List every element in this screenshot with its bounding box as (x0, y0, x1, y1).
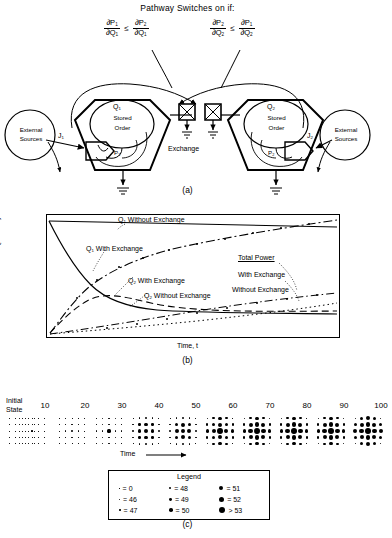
matrix-dot (59, 437, 60, 438)
matrix-dot (206, 429, 209, 432)
matrix-dot (188, 423, 191, 426)
matrix-dot (249, 443, 252, 446)
annotation-q1-with-exchange: Q1 With Exchange (86, 245, 143, 254)
matrix-dot (292, 442, 295, 445)
matrix-dot (299, 443, 302, 446)
legend-item: = 50 (169, 506, 189, 514)
matrix-dot (59, 443, 60, 444)
matrix-dot (181, 429, 186, 434)
matrix-dot (280, 423, 283, 426)
matrix-dot (152, 417, 154, 419)
matrix-dot (181, 435, 185, 439)
caption-a: (a) (0, 186, 375, 195)
legend-dot (169, 487, 171, 489)
matrix-dot (372, 429, 377, 434)
matrix-dot (269, 443, 270, 444)
matrix-dot (102, 424, 103, 425)
legend-title: Legend (109, 472, 269, 481)
tank-right-line1: Stored (254, 115, 299, 122)
annotation-total-power-title: Total Power (238, 254, 275, 261)
matrix-dot (317, 429, 320, 432)
matrix-dot (323, 423, 327, 427)
column-header-30: 30 (107, 401, 137, 410)
matrix-dot (151, 429, 154, 432)
matrix-dot (249, 417, 252, 420)
matrix-dot (189, 443, 191, 445)
matrix-dot (336, 417, 339, 420)
legend-item: = 51 (219, 484, 240, 492)
matrix-dot (292, 417, 295, 420)
matrix-10 (16, 415, 48, 447)
matrix-dot (145, 417, 148, 420)
matrix-dot (169, 430, 172, 433)
matrix-dot (59, 424, 60, 425)
matrix-dot (84, 418, 85, 419)
matrix-dot (248, 429, 253, 434)
matrix-dot (158, 430, 161, 433)
matrix-dot (329, 422, 334, 427)
matrix-dot (195, 418, 196, 419)
matrix-dot (335, 423, 339, 427)
matrix-dot (343, 436, 346, 439)
matrix-dot (187, 429, 191, 433)
matrix-dot (133, 418, 134, 419)
matrix-dot (323, 417, 326, 420)
matrix-dot (115, 443, 116, 444)
matrix-dot (38, 431, 39, 432)
matrix-dot (195, 430, 198, 433)
matrix-dot (38, 443, 39, 444)
flow-label-j1: J1 (58, 132, 64, 141)
matrix-dot (218, 417, 221, 420)
matrix-dot (176, 443, 178, 445)
legend-label: = 49 (175, 496, 189, 503)
matrix-dot (372, 423, 376, 427)
matrix-dot (212, 417, 215, 420)
matrix-dot (366, 416, 370, 420)
matrix-dot (132, 424, 134, 426)
column-header-50: 50 (181, 401, 211, 410)
matrix-dot (298, 423, 302, 427)
matrix-dot (380, 418, 381, 419)
tank-right-line2: Order (254, 125, 299, 132)
matrix-dot (379, 429, 383, 433)
matrix-dot (181, 423, 185, 427)
matrix-dot (108, 443, 109, 444)
matrix-dot (151, 436, 154, 439)
matrix-dot (366, 435, 371, 440)
matrix-dot (373, 417, 376, 420)
matrix-100 (352, 415, 384, 447)
matrix-dot (19, 443, 20, 444)
matrix-dot (286, 435, 290, 439)
matrix-dot (38, 424, 39, 425)
matrix-70 (241, 415, 273, 447)
matrix-dot (175, 423, 178, 426)
legend-dot (119, 509, 121, 511)
matrix-dot (78, 418, 79, 419)
matrix-dot (262, 417, 265, 420)
matrix-dot (232, 436, 235, 439)
matrix-dot (115, 430, 117, 432)
matrix-dot (25, 437, 26, 438)
matrix-dot (195, 443, 196, 444)
matrix-dot (65, 424, 66, 425)
matrix-80 (278, 415, 310, 447)
matrix-dot (281, 418, 282, 419)
chart-plot-area (46, 214, 340, 338)
matrix-dot (19, 431, 20, 432)
matrix-40 (130, 415, 162, 447)
matrix-dot (366, 442, 370, 446)
matrix-dot (84, 437, 85, 438)
flow-label-j2: J2 (307, 132, 313, 141)
matrix-dot (261, 435, 265, 439)
matrix-dot (354, 423, 357, 426)
matrix-dot (243, 436, 246, 439)
matrix-dot (138, 429, 141, 432)
matrix-dot (25, 424, 26, 425)
external-sources-right-line1: External (325, 127, 367, 134)
time-arrow-label: Time (120, 450, 135, 457)
matrix-dot (225, 443, 228, 446)
matrix-dot (115, 437, 116, 438)
matrix-dot (255, 435, 260, 440)
matrix-dot (71, 437, 72, 438)
matrix-dot (343, 418, 344, 419)
